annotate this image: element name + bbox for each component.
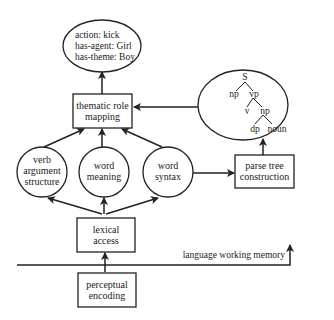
lexical-line-2: access	[93, 235, 119, 246]
syntax-line-2: syntax	[155, 171, 181, 182]
parse-tree-construction-node: parse tree construction	[235, 155, 294, 188]
word-syntax-node: word syntax	[143, 147, 193, 197]
meaning-line-2: meaning	[87, 171, 121, 182]
frame-line-agent: has-agent: Girl	[75, 41, 132, 51]
tree-label-np: np	[229, 89, 239, 99]
tree-label-noun: noun	[268, 124, 287, 134]
verbarg-line-3: structure	[25, 176, 61, 187]
lexical-access-node: lexical access	[77, 218, 135, 252]
perceptual-encoding-node: perceptual encoding	[78, 273, 136, 307]
construction-line-2: construction	[240, 171, 289, 182]
output-frame-node: action: kick has-agent: Girl has-theme: …	[63, 20, 141, 72]
tree-label-dp: dp	[250, 124, 260, 134]
edge-verbarg-to-thematic	[44, 129, 84, 147]
meaning-line-1: word	[94, 160, 115, 171]
word-meaning-node: word meaning	[79, 147, 129, 197]
lexical-line-1: lexical	[93, 224, 120, 235]
edge-lexical-to-syntax	[106, 198, 158, 214]
edge-lexical-to-verbarg	[48, 198, 102, 214]
thematic-line-1: thematic role	[76, 100, 129, 111]
frame-line-action: action: kick	[75, 30, 120, 40]
edge-syntax-to-thematic	[122, 129, 162, 147]
tree-label-s: S	[242, 72, 247, 82]
thematic-role-mapping-node: thematic role mapping	[73, 94, 132, 128]
verb-argument-structure-node: verb argument structure	[17, 147, 67, 197]
tree-label-np2: np	[260, 106, 270, 116]
construction-line-1: parse tree	[245, 160, 284, 171]
tree-label-v: v	[245, 106, 250, 116]
thematic-line-2: mapping	[85, 111, 120, 122]
parse-tree-node: S np vp v np dp noun	[198, 70, 288, 140]
verbarg-line-1: verb	[33, 154, 51, 165]
language-processing-diagram: action: kick has-agent: Girl has-theme: …	[0, 0, 334, 320]
perceptual-line-2: encoding	[89, 290, 126, 301]
perceptual-line-1: perceptual	[86, 279, 128, 290]
verbarg-line-2: argument	[23, 165, 61, 176]
syntax-line-1: word	[158, 160, 179, 171]
tree-label-vp: vp	[249, 89, 259, 99]
frame-line-theme: has-theme: Boy	[75, 52, 135, 62]
memory-label: language working memory	[183, 250, 286, 260]
